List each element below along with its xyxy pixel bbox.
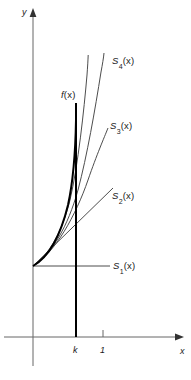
curve-label-fx-arg: (x) bbox=[64, 89, 76, 100]
curve-label-s4-sub: 4 bbox=[119, 63, 123, 70]
curve-label-fx: f(x) bbox=[61, 90, 76, 100]
curve-label-s1: S1(x) bbox=[113, 261, 135, 271]
x-tick-label-k: k bbox=[73, 346, 78, 355]
curve-label-s1-sub: 1 bbox=[120, 268, 124, 275]
y-axis-arrowhead bbox=[30, 8, 37, 17]
curve-label-s2: S2(x) bbox=[112, 191, 134, 201]
curve-s4 bbox=[33, 53, 104, 266]
y-axis bbox=[30, 8, 37, 366]
curve-label-s4-arg: (x) bbox=[123, 55, 135, 66]
curve-label-s1-arg: (x) bbox=[124, 260, 136, 271]
plot-svg bbox=[0, 0, 191, 380]
curve-label-s3-base: S bbox=[110, 120, 117, 131]
curve-label-s4: S4(x) bbox=[112, 56, 134, 66]
curve-label-s2-base: S bbox=[112, 190, 119, 201]
x-tick-label-one: 1 bbox=[100, 346, 105, 355]
curve-label-s3-arg: (x) bbox=[121, 120, 133, 131]
curve-label-s4-base: S bbox=[112, 55, 119, 66]
curve-label-s2-sub: 2 bbox=[119, 198, 123, 205]
figure-canvas: y x k 1 S4(x) S3(x) S2(x) S1(x) f(x) bbox=[0, 0, 191, 380]
curve-label-s1-base: S bbox=[113, 260, 120, 271]
y-axis-label: y bbox=[22, 8, 27, 17]
curve-label-s3-sub: 3 bbox=[117, 128, 121, 135]
x-axis bbox=[4, 333, 184, 340]
curve-fx bbox=[33, 103, 76, 266]
curve-label-s3: S3(x) bbox=[110, 121, 132, 131]
x-axis-label: x bbox=[180, 347, 185, 356]
x-axis-arrowhead bbox=[175, 333, 184, 340]
curve-label-s2-arg: (x) bbox=[123, 190, 135, 201]
